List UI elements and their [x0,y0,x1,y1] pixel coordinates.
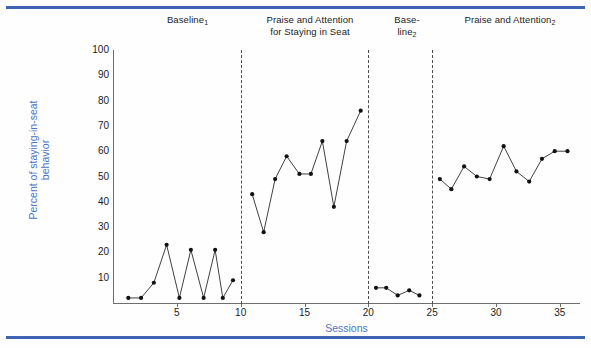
data-point-marker [553,149,557,153]
x-axis-tick-label: 25 [420,307,444,318]
data-point-marker [527,179,531,183]
data-point-marker [139,296,143,300]
data-point-marker [297,172,301,176]
x-axis-title: Sessions [113,322,580,334]
data-point-marker [273,177,277,181]
data-point-marker [126,296,130,300]
phase-header-baseline-2-subscript: 2 [413,31,417,38]
y-axis-tick-label: 90 [83,69,109,80]
phase-series-1 [126,243,235,300]
data-point-marker [213,248,217,252]
x-axis-tick-label: 10 [229,307,253,318]
x-axis-tick-label: 15 [293,307,317,318]
data-point-marker [475,174,479,178]
data-point-marker [262,230,266,234]
data-point-marker [332,205,336,209]
phase-header-praise-2-text: Praise and Attention [464,14,551,25]
data-point-marker [417,293,421,297]
data-point-marker [488,177,492,181]
data-point-marker [309,172,313,176]
phase-header-praise-1-line1: Praise and Attention [247,14,373,26]
x-axis-tick-label: 20 [356,307,380,318]
data-point-marker [231,278,235,282]
data-point-marker [449,187,453,191]
phase-header-praise-2-subscript: 2 [552,19,556,26]
data-point-marker [320,139,324,143]
data-point-marker [438,177,442,181]
phase-header-baseline-1: Baseline1 [135,14,240,27]
data-point-marker [462,164,466,168]
data-point-marker [374,286,378,290]
x-axis-tick-label: 5 [165,307,189,318]
y-axis-tick-label: 40 [83,196,109,207]
series-line [440,146,568,189]
y-axis-tick-label: 20 [83,246,109,257]
data-point-marker [152,281,156,285]
x-axis-tick-label: 30 [484,307,508,318]
data-point-marker [384,286,388,290]
data-point-marker [250,192,254,196]
phase-header-praise-1: Praise and Attention for Staying in Seat [247,14,373,37]
phase-header-baseline-2-line2: line2 [381,26,433,39]
data-point-marker [202,296,206,300]
y-axis-title: Percent of staying-in-seat behavior [27,85,51,235]
y-axis-tick-label: 100 [83,44,109,55]
phase-series-2 [250,109,363,235]
phase-header-praise-1-line2: for Staying in Seat [247,26,373,38]
phase-header-baseline-1-text: Baseline [167,14,204,25]
phase-divider-line [432,50,433,304]
y-axis-tick-label: 10 [83,272,109,283]
y-axis-tick-label: 80 [83,95,109,106]
phase-divider-line [368,50,369,304]
data-point-marker [345,139,349,143]
data-point-marker [565,149,569,153]
x-axis-tick-label: 35 [548,307,572,318]
data-point-marker [514,169,518,173]
data-point-marker [189,248,193,252]
data-point-marker [396,293,400,297]
data-point-marker [177,296,181,300]
data-point-marker [359,109,363,113]
phase-header-baseline-2-line1: Base- [381,14,433,26]
phase-header-praise-2: Praise and Attention2 [440,14,580,27]
data-point-marker [540,157,544,161]
data-point-marker [221,296,225,300]
series-line [252,111,361,232]
data-point-marker [502,144,506,148]
y-axis-tick-label: 70 [83,120,109,131]
y-axis-tick-label: 50 [83,171,109,182]
data-point-marker [285,154,289,158]
y-axis-tick-label: 60 [83,145,109,156]
data-point-marker [165,243,169,247]
figure-canvas: Baseline1 Praise and Attention for Stayi… [0,0,591,348]
plot-area [113,50,579,303]
series-line [128,245,233,298]
y-axis-tick-label: 30 [83,221,109,232]
phase-series-4 [438,144,570,191]
x-axis-line [113,303,580,304]
phase-header-baseline-2-line2-text: line [397,26,412,37]
phase-header-baseline-1-subscript: 1 [204,19,208,26]
phase-divider-line [241,50,242,304]
data-series-group [113,50,579,303]
phase-series-3 [374,286,422,298]
phase-header-baseline-2: Base- line2 [381,14,433,38]
data-point-marker [407,288,411,292]
y-axis-tick-labels: 100908070605040302010 [80,0,109,348]
